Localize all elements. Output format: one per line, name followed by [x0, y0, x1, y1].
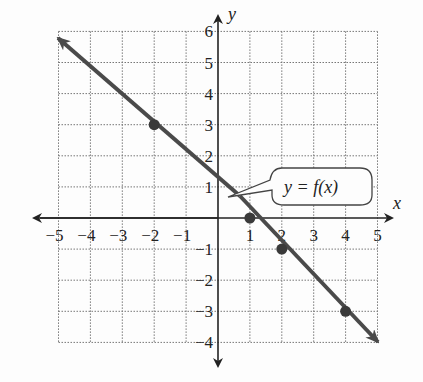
function-label: y = f(x): [282, 177, 338, 198]
svg-text:1: 1: [246, 226, 255, 245]
svg-text:3: 3: [205, 116, 214, 135]
data-point: [149, 119, 160, 130]
svg-text:4: 4: [341, 226, 350, 245]
svg-text:−1: −1: [195, 240, 213, 259]
svg-text:−2: −2: [195, 271, 213, 290]
svg-text:−3: −3: [109, 226, 127, 245]
svg-text:4: 4: [205, 85, 214, 104]
x-tick-labels: −5−4−3−2−112345: [45, 226, 381, 245]
svg-text:1: 1: [205, 178, 214, 197]
coordinate-plane: x y −5−4−3−2−112345 654321−1−2−3−4 y = f…: [0, 0, 423, 382]
svg-text:−1: −1: [173, 226, 191, 245]
svg-text:−4: −4: [195, 333, 214, 352]
svg-text:2: 2: [205, 147, 214, 166]
data-point: [276, 244, 287, 255]
svg-text:−5: −5: [45, 226, 63, 245]
svg-text:5: 5: [205, 54, 214, 73]
x-axis-label: x: [392, 193, 401, 213]
svg-text:6: 6: [205, 22, 214, 41]
svg-text:5: 5: [373, 226, 382, 245]
svg-text:−3: −3: [195, 302, 213, 321]
svg-text:−2: −2: [141, 226, 159, 245]
svg-text:−4: −4: [77, 226, 96, 245]
data-point: [340, 306, 351, 317]
svg-text:3: 3: [309, 226, 318, 245]
y-axis-label: y: [226, 4, 236, 24]
data-point: [244, 213, 255, 224]
